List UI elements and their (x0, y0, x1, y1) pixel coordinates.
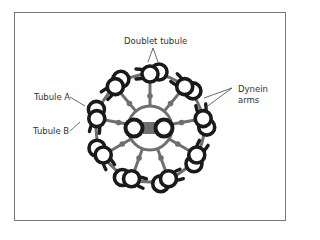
spoke-head (179, 120, 185, 126)
tubule-a (189, 147, 205, 163)
spoke-head (127, 101, 133, 107)
spoke-head (158, 155, 164, 161)
spoke-head (119, 141, 125, 147)
spoke-head (147, 93, 153, 99)
spoke-head (116, 120, 122, 126)
spoke-head (136, 155, 142, 161)
central-tubule-right (156, 120, 173, 137)
tubule-a (177, 79, 193, 95)
doublet-tubule (114, 170, 146, 189)
doublet-leader (148, 48, 158, 62)
label-arms: arms (238, 95, 259, 105)
tubule-b-leader (70, 122, 80, 131)
dynein-leader-2 (205, 88, 232, 108)
tubule-a (195, 111, 211, 127)
label-tubule-b: Tubule B (33, 126, 69, 136)
spoke-head (175, 141, 181, 147)
label-dynein: Dynein (238, 84, 268, 94)
doublet-tubule (195, 104, 215, 135)
tubule-a (89, 111, 105, 127)
dynein-leader-1 (204, 88, 232, 98)
doublet-tubule (136, 64, 167, 82)
label-tubule-a: Tubule A (34, 92, 70, 102)
doublet-tubule (171, 74, 201, 99)
tubule-a (124, 171, 140, 187)
tubule-a (95, 147, 111, 163)
tubule-a-leader (70, 97, 85, 106)
tubule-a (107, 79, 123, 95)
label-doublet-tubule: Doublet tubule (124, 36, 187, 46)
central-tubule-left (126, 120, 143, 137)
spoke-head (168, 101, 174, 107)
doublet-tubule (186, 140, 208, 171)
tubule-a (160, 171, 176, 187)
tubule-a (142, 66, 158, 82)
